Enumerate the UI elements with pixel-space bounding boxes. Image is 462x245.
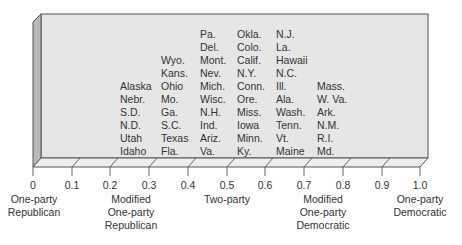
state-label: Texas — [161, 132, 188, 145]
state-label: Ariz. — [200, 132, 226, 145]
state-label: Colo. — [237, 41, 265, 54]
state-label: S.C. — [161, 119, 188, 132]
state-label: Va. — [200, 145, 226, 158]
category-modified-one-party-republican: Modified One-party Republican — [105, 193, 158, 232]
state-label: N.D. — [120, 119, 152, 132]
state-label: Utah — [120, 132, 152, 145]
category-line: One-party — [393, 193, 446, 206]
state-label: Mass. — [317, 80, 347, 93]
category-line: Democratic — [393, 206, 446, 219]
state-label: Mo. — [161, 93, 188, 106]
state-label: Nev. — [200, 67, 226, 80]
tick-label-0.3: 0.3 — [142, 179, 157, 191]
state-label: Fla. — [161, 145, 188, 158]
back-panel — [41, 14, 428, 158]
state-label: Kans. — [161, 67, 188, 80]
state-label: N.Y. — [237, 67, 265, 80]
state-label: Iowa — [237, 119, 265, 132]
state-label: R.I. — [317, 132, 347, 145]
category-line: Two-party — [204, 193, 250, 206]
state-label: Ind. — [200, 119, 226, 132]
state-label: Del. — [200, 41, 226, 54]
state-label: Tenn. — [276, 119, 308, 132]
category-line: Modified — [296, 193, 349, 206]
category-line: Republican — [105, 219, 158, 232]
state-label: Conn. — [237, 80, 265, 93]
tick-label-0.9: 0.9 — [375, 179, 390, 191]
tick-label-0.6: 0.6 — [258, 179, 273, 191]
state-label: S.D. — [120, 106, 152, 119]
state-label: Hawaii — [276, 54, 308, 67]
column-0.5-0.6: Okla. Colo. Calif. N.Y. Conn. Ore. Miss.… — [237, 28, 265, 158]
state-label: N.J. — [276, 28, 308, 41]
state-label: Ga. — [161, 106, 188, 119]
state-label: Vt. — [276, 132, 308, 145]
state-label: La. — [276, 41, 308, 54]
category-line: Modified — [105, 193, 158, 206]
state-label: Calif. — [237, 54, 265, 67]
state-label: Ohio — [161, 80, 188, 93]
category-one-party-democratic: One-party Democratic — [393, 193, 446, 219]
state-label: Miss. — [237, 106, 265, 119]
state-label: Wash. — [276, 106, 308, 119]
left-side-wall — [33, 14, 41, 167]
state-label: W. Va. — [317, 93, 347, 106]
category-line: Democratic — [296, 219, 349, 232]
state-label: Ala. — [276, 93, 308, 106]
state-label: Ill. — [276, 80, 308, 93]
category-line: One-party — [105, 206, 158, 219]
state-label: Ore. — [237, 93, 265, 106]
state-label: Md. — [317, 145, 347, 158]
axis-ticks — [33, 167, 420, 176]
tick-label-0.8: 0.8 — [336, 179, 351, 191]
column-0.4-0.5: Pa. Del. Mont. Nev. Mich. Wisc. N.H. Ind… — [200, 28, 226, 158]
state-label: Ky. — [237, 145, 265, 158]
tick-label-0.5: 0.5 — [220, 179, 235, 191]
state-label: N.C. — [276, 67, 308, 80]
category-line: One-party — [296, 206, 349, 219]
category-modified-one-party-democratic: Modified One-party Democratic — [296, 193, 349, 232]
state-label: Minn. — [237, 132, 265, 145]
state-label: N.H. — [200, 106, 226, 119]
column-0.2-0.3: Alaska Nebr. S.D. N.D. Utah Idaho — [120, 80, 152, 158]
tick-label-0.1: 0.1 — [65, 179, 80, 191]
category-line: One-party — [8, 193, 61, 206]
tick-label-0.7: 0.7 — [297, 179, 312, 191]
state-label: N.M. — [317, 119, 347, 132]
state-label: Mont. — [200, 54, 226, 67]
state-label: Okla. — [237, 28, 265, 41]
tick-label-0.2: 0.2 — [103, 179, 118, 191]
state-label: Ark. — [317, 106, 347, 119]
category-line: Republican — [8, 206, 61, 219]
state-label: Mich. — [200, 80, 226, 93]
state-label: Idaho — [120, 145, 152, 158]
column-0.6-0.7: N.J. La. Hawaii N.C. Ill. Ala. Wash. Ten… — [276, 28, 308, 158]
state-label: Wyo. — [161, 54, 188, 67]
state-label: Nebr. — [120, 93, 152, 106]
tick-label-0.4: 0.4 — [181, 179, 196, 191]
category-two-party: Two-party — [204, 193, 250, 206]
state-label: Maine — [276, 145, 308, 158]
column-0.3-0.4: Wyo. Kans. Ohio Mo. Ga. S.C. Texas Fla. — [161, 54, 188, 158]
state-label: Alaska — [120, 80, 152, 93]
column-0.7-0.8: Mass. W. Va. Ark. N.M. R.I. Md. — [317, 80, 347, 158]
state-label: Pa. — [200, 28, 226, 41]
category-one-party-republican: One-party Republican — [8, 193, 61, 219]
state-label: Wisc. — [200, 93, 226, 106]
tick-label-0: 0 — [30, 179, 36, 191]
tick-label-1.0: 1.0 — [413, 179, 428, 191]
